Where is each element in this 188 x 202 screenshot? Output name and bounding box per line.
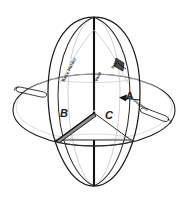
compartment-label-b: B (60, 107, 68, 119)
diagram-canvas: B C A Base Holder Vane Inlet Support (0, 0, 188, 202)
annotation-base-holder: Base Holder (60, 56, 77, 82)
partition-hub (93, 112, 96, 115)
compartment-label-c: C (105, 109, 114, 121)
annotation-support: Support (132, 98, 149, 113)
figure-root: B C A Base Holder Vane Inlet Support (0, 0, 188, 202)
